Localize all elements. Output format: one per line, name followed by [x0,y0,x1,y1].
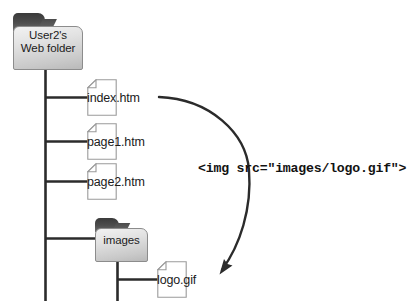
arrowhead-icon [220,259,233,275]
folder-label-user2-web: User2's Web folder [13,13,83,70]
reference-arrow-curve [159,97,249,270]
file-label-page1-htm: page1.htm [87,135,145,149]
file-index-htm[interactable]: index.htm [87,79,117,116]
folder-label-line2: Web folder [21,42,75,54]
file-label-page2-htm: page2.htm [87,175,145,189]
folder-images[interactable]: images [95,218,148,262]
file-label-logo-gif: logo.gif [157,273,196,287]
file-page1-htm[interactable]: page1.htm [87,123,117,160]
file-label-index-htm: index.htm [87,91,140,105]
code-snippet-img-tag: <img src="images/logo.gif"> [198,161,406,176]
folder-user2-web[interactable]: User2's Web folder [13,13,83,70]
folder-label-images: images [95,218,148,262]
folder-label-line1: User2's [29,29,67,41]
file-page2-htm[interactable]: page2.htm [87,163,117,200]
directory-structure-diagram: User2's Web folder index.htm page1.htm p… [0,0,414,306]
file-logo-gif[interactable]: logo.gif [157,261,187,298]
